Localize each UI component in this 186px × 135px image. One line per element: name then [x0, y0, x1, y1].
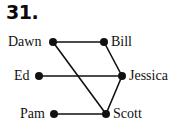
graph-node-dawn[interactable] [49, 38, 57, 46]
node-label-jessica: Jessica [129, 69, 168, 83]
edges-group [39, 42, 122, 114]
graph-node-bill[interactable] [100, 38, 108, 46]
graph-node-jessica[interactable] [118, 72, 126, 80]
node-label-ed: Ed [14, 69, 30, 83]
node-label-bill: Bill [111, 35, 132, 49]
node-label-pam: Pam [20, 107, 45, 121]
graph-node-scott[interactable] [102, 110, 110, 118]
figure-container: 31. DawnBillEdJessicaPamScott [0, 0, 186, 135]
graph-edge-dawn-scott [53, 42, 106, 114]
node-label-scott: Scott [113, 107, 142, 121]
graph-node-pam[interactable] [50, 110, 58, 118]
node-label-dawn: Dawn [8, 35, 41, 49]
graph-node-ed[interactable] [35, 72, 43, 80]
